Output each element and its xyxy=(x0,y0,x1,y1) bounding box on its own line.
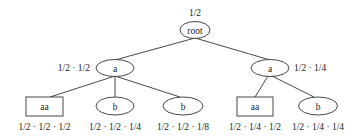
node-aa2-label: aa xyxy=(251,102,260,112)
node-b1-probability: 1/2 · 1/2 · 1/4 xyxy=(89,122,141,132)
node-b2-probability: 1/2 · 1/2 · 1/8 xyxy=(157,122,209,132)
node-b2-label: b xyxy=(181,102,186,112)
node-aa1-label: aa xyxy=(40,102,49,112)
node-b1-label: b xyxy=(113,102,118,112)
edge-a2-aa2 xyxy=(255,76,268,97)
node-root: 1/2 root xyxy=(180,8,210,39)
node-root-label: root xyxy=(187,26,203,36)
node-a2-probability: 1/2 · 1/4 xyxy=(294,63,326,73)
node-a1: 1/2 · 1/2 a xyxy=(58,60,134,77)
node-b3-probability: 1/2 · 1/4 · 1/4 xyxy=(292,122,344,132)
node-aa1: aa 1/2 · 1/2 · 1/2 xyxy=(18,97,70,132)
probability-tree-diagram: 1/2 root 1/2 · 1/2 a a 1/2 · 1/4 aa 1/2 … xyxy=(0,0,362,138)
node-b3: b 1/2 · 1/4 · 1/4 xyxy=(292,97,344,132)
node-aa2-probability: 1/2 · 1/4 · 1/2 xyxy=(229,122,281,132)
node-a2: a 1/2 · 1/4 xyxy=(251,60,326,77)
edge-root-a2 xyxy=(195,38,270,60)
node-b2: b 1/2 · 1/2 · 1/8 xyxy=(157,97,209,132)
edge-a1-b2 xyxy=(115,76,180,97)
edge-root-a1 xyxy=(115,38,195,60)
node-aa1-probability: 1/2 · 1/2 · 1/2 xyxy=(18,122,70,132)
edge-a1-aa1 xyxy=(50,76,115,97)
node-aa2: aa 1/2 · 1/4 · 1/2 xyxy=(229,97,281,132)
node-root-probability: 1/2 xyxy=(189,8,201,18)
node-b3-label: b xyxy=(316,102,321,112)
node-b1: b 1/2 · 1/2 · 1/4 xyxy=(89,97,141,132)
edge-a2-b3 xyxy=(272,76,314,97)
node-a1-probability: 1/2 · 1/2 xyxy=(58,63,90,73)
